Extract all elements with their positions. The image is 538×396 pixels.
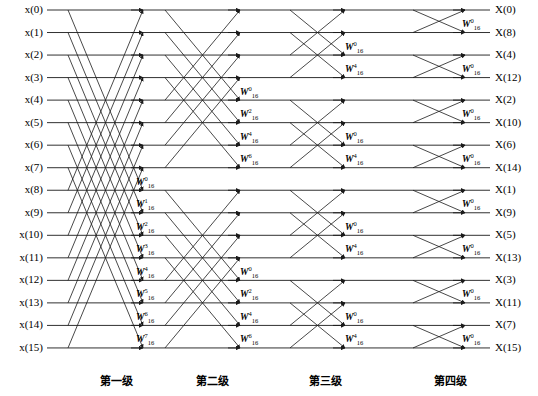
twiddle-stage4-row15: W016 [462, 335, 480, 345]
twiddle-stage2-row6: W416 [240, 133, 258, 143]
twiddle-subscript: 16 [148, 339, 155, 346]
output-label-5: X(10) [495, 117, 521, 128]
twiddle-exponent: 4 [144, 265, 147, 272]
input-label-7: x(7) [0, 162, 43, 173]
stage-label-4: 第四级 [410, 372, 490, 388]
twiddle-stage1-row11: W316 [136, 245, 154, 255]
output-label-7: X(14) [495, 162, 521, 173]
twiddle-stage4-row1: W016 [462, 20, 480, 30]
twiddle-stage4-row3: W016 [462, 65, 480, 75]
butterfly-flow-graph [0, 0, 538, 396]
twiddle-stage1-row9: W116 [136, 200, 154, 210]
twiddle-subscript: 16 [148, 272, 155, 279]
twiddle-stage4-row11: W016 [462, 245, 480, 255]
output-label-14: X(7) [495, 319, 516, 330]
twiddle-subscript: 16 [474, 204, 481, 211]
input-label-14: x(14) [0, 319, 43, 330]
fft-butterfly-diagram: x(0)x(1)x(2)x(3)x(4)x(5)x(6)x(7)x(8)x(9)… [0, 0, 538, 396]
twiddle-subscript: 16 [357, 159, 364, 166]
twiddle-stage2-row7: W616 [240, 155, 258, 165]
twiddle-stage1-row14: W616 [136, 313, 154, 323]
output-label-13: X(11) [495, 297, 521, 308]
twiddle-exponent: 0 [144, 175, 147, 182]
twiddle-exponent: 4 [353, 152, 356, 159]
twiddle-exponent: 0 [470, 17, 473, 24]
twiddle-subscript: 16 [357, 137, 364, 144]
input-label-10: x(10) [0, 229, 43, 240]
twiddle-subscript: 16 [474, 294, 481, 301]
twiddle-subscript: 16 [252, 114, 259, 121]
twiddle-exponent: 0 [470, 152, 473, 159]
twiddle-stage2-row15: W616 [240, 335, 258, 345]
twiddle-exponent: 0 [248, 84, 251, 91]
stage-label-1: 第一级 [76, 372, 156, 388]
twiddle-exponent: 2 [144, 220, 147, 227]
output-label-8: X(1) [495, 184, 516, 195]
output-label-3: X(12) [495, 72, 521, 83]
input-label-0: x(0) [0, 4, 43, 15]
output-label-9: X(9) [495, 207, 516, 218]
twiddle-stage1-row13: W516 [136, 290, 154, 300]
twiddle-subscript: 16 [148, 182, 155, 189]
twiddle-exponent: 2 [248, 107, 251, 114]
twiddle-subscript: 16 [252, 339, 259, 346]
input-label-6: x(6) [0, 139, 43, 150]
twiddle-stage3-row6: W016 [345, 133, 363, 143]
input-label-15: x(15) [0, 342, 43, 353]
twiddle-subscript: 16 [474, 24, 481, 31]
output-label-12: X(3) [495, 274, 516, 285]
twiddle-subscript: 16 [148, 294, 155, 301]
input-label-3: x(3) [0, 72, 43, 83]
twiddle-subscript: 16 [474, 69, 481, 76]
twiddle-stage2-row14: W416 [240, 313, 258, 323]
twiddle-subscript: 16 [252, 272, 259, 279]
stage-label-3: 第三级 [285, 372, 365, 388]
input-label-12: x(12) [0, 274, 43, 285]
horizontal-signal-lines [47, 10, 490, 348]
twiddle-subscript: 16 [474, 339, 481, 346]
twiddle-subscript: 16 [357, 227, 364, 234]
twiddle-stage3-row3: W416 [345, 65, 363, 75]
twiddle-subscript: 16 [474, 114, 481, 121]
twiddle-subscript: 16 [252, 92, 259, 99]
twiddle-stage3-row2: W016 [345, 43, 363, 53]
butterfly-cross-lines [68, 10, 465, 348]
twiddle-subscript: 16 [357, 317, 364, 324]
twiddle-stage4-row9: W016 [462, 200, 480, 210]
twiddle-subscript: 16 [148, 204, 155, 211]
twiddle-subscript: 16 [252, 317, 259, 324]
twiddle-stage3-row14: W016 [345, 313, 363, 323]
output-label-2: X(4) [495, 49, 516, 60]
input-label-11: x(11) [0, 252, 43, 263]
twiddle-subscript: 16 [357, 46, 364, 53]
input-label-4: x(4) [0, 94, 43, 105]
twiddle-stage2-row12: W016 [240, 268, 258, 278]
output-label-15: X(15) [495, 342, 521, 353]
stage-label-2: 第二级 [172, 372, 252, 388]
twiddle-subscript: 16 [252, 294, 259, 301]
twiddle-exponent: 0 [353, 130, 356, 137]
twiddle-subscript: 16 [148, 227, 155, 234]
twiddle-exponent: 4 [248, 310, 251, 317]
output-label-10: X(5) [495, 229, 516, 240]
twiddle-stage1-row15: W716 [136, 335, 154, 345]
input-label-5: x(5) [0, 117, 43, 128]
input-label-9: x(9) [0, 207, 43, 218]
twiddle-exponent: 0 [470, 62, 473, 69]
output-label-0: X(0) [495, 4, 516, 15]
twiddle-exponent: 6 [248, 152, 251, 159]
input-label-13: x(13) [0, 297, 43, 308]
twiddle-stage1-row10: W216 [136, 223, 154, 233]
twiddle-exponent: 0 [470, 107, 473, 114]
twiddle-stage3-row11: W416 [345, 245, 363, 255]
twiddle-subscript: 16 [252, 159, 259, 166]
twiddle-exponent: 0 [353, 310, 356, 317]
output-label-4: X(2) [495, 94, 516, 105]
twiddle-subscript: 16 [148, 317, 155, 324]
twiddle-stage1-row8: W016 [136, 178, 154, 188]
twiddle-exponent: 6 [144, 310, 147, 317]
twiddle-subscript: 16 [252, 137, 259, 144]
twiddle-stage3-row7: W416 [345, 155, 363, 165]
twiddle-stage4-row5: W016 [462, 110, 480, 120]
twiddle-stage2-row5: W216 [240, 110, 258, 120]
